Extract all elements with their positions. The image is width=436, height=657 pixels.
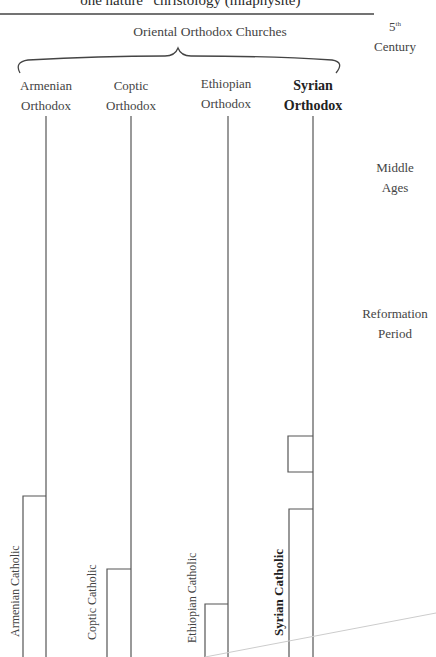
period-5th-century: 5th Century <box>354 14 436 57</box>
period-label-line1: Middle <box>354 158 436 178</box>
church-name-line1: Syrian <box>268 76 358 96</box>
church-syrian-orthodox: Syrian Orthodox <box>268 76 358 116</box>
church-name-line2: Orthodox <box>268 96 358 116</box>
armenian-catholic-branch <box>23 496 46 657</box>
church-name-line2: Orthodox <box>86 96 176 116</box>
church-name-line1: Armenian <box>1 76 91 96</box>
church-name-line2: Orthodox <box>1 96 91 116</box>
church-name-line2: Orthodox <box>181 94 271 114</box>
label-armenian-catholic: Armenian Catholic <box>8 545 23 637</box>
coptic-catholic-branch <box>107 569 131 657</box>
period-middle-ages: Middle Ages <box>354 158 436 198</box>
period-label: Century <box>354 37 436 57</box>
label-syrian-catholic: Syrian Catholic <box>271 549 287 636</box>
syrian-temporary-union <box>288 436 313 472</box>
label-ethiopian-catholic: Ethiopian Catholic <box>185 553 200 643</box>
period-ordinal-suffix: th <box>396 20 401 28</box>
syrian-catholic-branch <box>289 509 313 657</box>
brace <box>18 48 339 73</box>
period-label-line1: Reformation <box>354 304 436 324</box>
church-name-line1: Coptic <box>86 76 176 96</box>
label-coptic-catholic: Coptic Catholic <box>85 564 100 640</box>
period-label-line2: Period <box>354 324 436 344</box>
church-armenian-orthodox: Armenian Orthodox <box>1 76 91 116</box>
church-ethiopian-orthodox: Ethiopian Orthodox <box>181 74 271 114</box>
period-reformation: Reformation Period <box>354 304 436 344</box>
faint-diagonal <box>205 613 436 657</box>
oriental-orthodox-title: Oriental Orthodox Churches <box>60 24 360 40</box>
period-label-line2: Ages <box>354 178 436 198</box>
church-name-line1: Ethiopian <box>181 74 271 94</box>
church-coptic-orthodox: Coptic Orthodox <box>86 76 176 116</box>
ethiopian-catholic-branch <box>205 604 228 657</box>
